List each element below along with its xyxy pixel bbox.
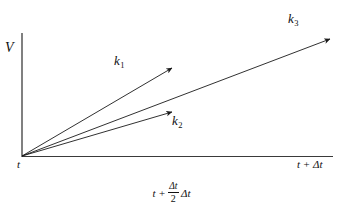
vector-k3	[22, 39, 330, 156]
axis-start-label: t	[17, 159, 20, 170]
vector-k2-label: k2	[172, 114, 182, 127]
vector-k2	[22, 112, 172, 156]
midpoint-formula-prefix: t +	[152, 187, 166, 199]
vector-k3-label-subscript: 3	[294, 18, 298, 28]
vector-k1	[22, 68, 172, 156]
vector-k1-label: k1	[114, 54, 124, 67]
runge-kutta-slope-diagram: V t t + Δt k1 k2 k3 t + Δt 2 Δt	[0, 0, 346, 217]
vector-k2-label-base: k	[172, 113, 178, 128]
midpoint-formula: t + Δt 2 Δt	[152, 182, 191, 204]
vector-k1-label-base: k	[114, 53, 120, 68]
midpoint-formula-denominator: 2	[171, 194, 176, 205]
axis-end-label: t + Δt	[297, 159, 323, 170]
midpoint-formula-numerator: Δt	[168, 182, 179, 192]
vector-k3-label-base: k	[288, 11, 294, 26]
v-axis-label: V	[5, 41, 14, 55]
midpoint-formula-suffix: Δt	[180, 187, 191, 199]
vector-k3-label: k3	[288, 12, 298, 25]
midpoint-formula-fraction: Δt 2	[168, 182, 179, 204]
vector-k2-label-subscript: 2	[178, 120, 182, 130]
vector-k1-label-subscript: 1	[120, 60, 124, 70]
